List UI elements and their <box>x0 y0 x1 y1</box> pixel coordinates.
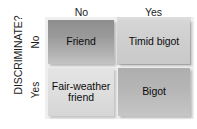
row-label-no: No <box>30 25 42 59</box>
matrix-grid: Friend Timid bigot Fair-weather friend B… <box>48 20 190 116</box>
axis-title-discriminate: DISCRIMINATE? <box>11 5 25 105</box>
row-label-yes: Yes <box>30 73 42 107</box>
matrix-cell-fair-weather-friend: Fair-weather friend <box>48 68 114 116</box>
discrimination-matrix-figure: DISCRIMINATE? No Yes No Yes Friend Timid… <box>0 0 197 129</box>
matrix-cell-timid-bigot: Timid bigot <box>118 20 190 64</box>
matrix-cell-bigot: Bigot <box>118 68 190 116</box>
matrix-cell-friend: Friend <box>48 20 114 64</box>
